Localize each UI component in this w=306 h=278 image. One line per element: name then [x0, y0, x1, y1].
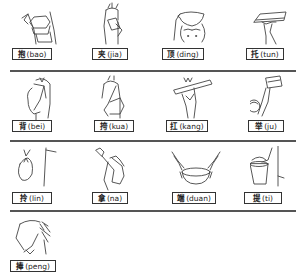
verb-label: 挎(kua) [94, 120, 134, 132]
row-divider [10, 140, 296, 142]
row-divider [10, 210, 296, 212]
hanzi: 顶 [167, 50, 174, 59]
carry-bowl-level-icon [170, 146, 246, 194]
hanzi: 拿 [98, 194, 105, 203]
hanzi: 提 [253, 194, 260, 203]
pinyin: (bao) [27, 50, 47, 59]
hug-to-chest-icon [10, 0, 86, 48]
pinyin: (peng) [25, 262, 50, 271]
carry-on-back-icon [10, 74, 86, 122]
hanzi: 抱 [18, 50, 25, 59]
pinyin: (lin) [29, 194, 44, 203]
verb-label: 捧(peng) [10, 260, 56, 272]
verb-label: 顶(ding) [162, 48, 204, 60]
verb-label: 提(ti) [244, 192, 282, 204]
pinyin: (bei) [28, 122, 45, 131]
verb-label: 扛(kang) [166, 120, 208, 132]
hold-bottle-icon [90, 146, 166, 194]
hanzi: 捧 [16, 262, 23, 271]
carry-bucket-icon [250, 146, 306, 194]
lift-overhead-icon [250, 74, 306, 122]
hold-under-arm-icon [90, 0, 166, 48]
verb-label: 拿(na) [92, 192, 128, 204]
pinyin: (duan) [186, 194, 211, 203]
hanzi: 背 [19, 122, 26, 131]
verb-label: 拎(lin) [12, 192, 52, 204]
hanzi: 扛 [170, 122, 177, 131]
pinyin: (kang) [179, 122, 203, 131]
carry-on-arm-icon [90, 74, 166, 122]
pinyin: (ju) [264, 122, 277, 131]
shoulder-pole-icon [172, 74, 248, 122]
hanzi: 夹 [98, 50, 105, 59]
support-on-palm-icon [250, 0, 306, 48]
verb-label: 举(ju) [248, 120, 284, 132]
pinyin: (ti) [262, 194, 273, 203]
hold-in-both-hands-icon [10, 214, 86, 262]
row-divider [10, 70, 296, 72]
pinyin: (tun) [260, 50, 278, 59]
pinyin: (jia) [107, 50, 122, 59]
hanzi: 挎 [100, 122, 107, 131]
pinyin: (ding) [176, 50, 198, 59]
verb-label: 背(bei) [12, 120, 52, 132]
hanzi: 端 [177, 194, 184, 203]
hanzi: 拎 [20, 194, 27, 203]
carry-on-head-icon [168, 0, 244, 48]
pinyin: (na) [107, 194, 122, 203]
verb-label: 托(tun) [246, 48, 284, 60]
pinyin: (kua) [109, 122, 128, 131]
verb-label: 端(duan) [172, 192, 216, 204]
verb-label: 夹(jia) [92, 48, 128, 60]
hanzi: 举 [255, 122, 262, 131]
verb-label: 抱(bao) [12, 48, 52, 60]
dangle-bag-icon [10, 146, 86, 194]
hanzi: 托 [251, 50, 258, 59]
